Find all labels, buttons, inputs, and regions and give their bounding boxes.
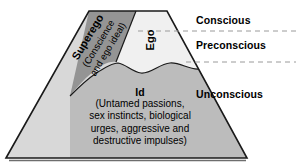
id-description-line2: sex instincts, biological (77, 110, 203, 122)
id-label-group: Id (Untamed passions, sex instincts, bio… (77, 86, 203, 147)
level-label-conscious: Conscious (196, 14, 251, 26)
diagram-canvas: Conscious Preconscious Unconscious Super… (0, 0, 296, 167)
id-title: Id (77, 86, 203, 98)
ego-title: Ego (144, 20, 156, 60)
id-description-line3: urges, aggressive and (77, 123, 203, 135)
id-description-line4: destructive impulses) (77, 135, 203, 147)
level-label-unconscious: Unconscious (196, 88, 263, 100)
level-label-preconscious: Preconscious (196, 39, 266, 51)
id-description-line1: (Untamed passions, (77, 98, 203, 110)
